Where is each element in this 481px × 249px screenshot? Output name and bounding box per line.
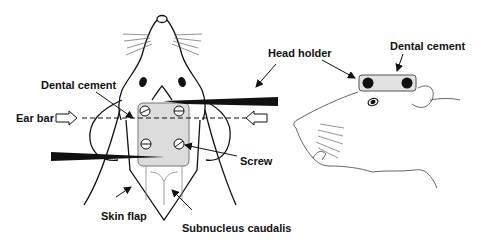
screw-head-lateral-right-icon — [402, 78, 413, 89]
whiskers-lateral — [316, 124, 344, 158]
ear-left — [90, 100, 122, 160]
screw-icon — [174, 106, 184, 116]
screw-head-lateral-left-icon — [363, 78, 374, 89]
label-screw: Screw — [240, 155, 272, 167]
label-subnucleus-caudalis: Subnucleus caudalis — [182, 222, 291, 234]
eye-left — [139, 77, 148, 88]
diagram-canvas — [0, 0, 481, 249]
lateral-ear — [412, 86, 460, 108]
label-ear-bar: Ear bar — [16, 112, 54, 124]
whiskers-dorsal — [123, 34, 202, 55]
ear-bar-arrow-left-icon — [56, 111, 77, 125]
leader-arrows-right — [322, 54, 403, 78]
nose-tip — [157, 16, 167, 23]
screw-icon — [141, 139, 151, 149]
label-dental-cement-right: Dental cement — [390, 40, 465, 52]
subnucleus-caudalis-region — [146, 165, 182, 205]
figure: Dental cement Ear bar Screw Skin flap Su… — [0, 0, 481, 249]
eye-right — [178, 77, 187, 88]
label-head-holder: Head holder — [268, 47, 332, 59]
screw-icon — [140, 106, 150, 116]
lateral-mouth — [313, 151, 326, 160]
label-dental-cement-left: Dental cement — [41, 79, 116, 91]
label-skin-flap: Skin flap — [101, 210, 147, 222]
midline-notch — [152, 86, 172, 100]
screw-icon — [174, 139, 184, 149]
ear-bar-arrow-right-icon — [246, 111, 267, 125]
